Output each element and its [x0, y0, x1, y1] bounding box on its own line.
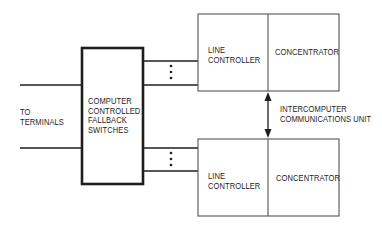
- upper-ellipsis-dot-3: [170, 77, 173, 80]
- fallback-switches-label: COMPUTER CONTROLLED FALLBACK SWITCHES: [88, 97, 140, 135]
- intercomputer-label-line1: INTERCOMPUTER: [280, 105, 371, 115]
- upper-concentrator-label: CONCENTRATOR: [275, 48, 339, 58]
- fallback-label-line3: FALLBACK: [88, 116, 140, 126]
- lower-line-controller-line1: LINE: [208, 172, 260, 182]
- terminals-label-line2: TERMINALS: [20, 118, 64, 128]
- terminals-label-line1: TO: [20, 108, 64, 118]
- lower-line-controller-label: LINE CONTROLLER: [208, 172, 260, 191]
- lower-concentrator-label: CONCENTRATOR: [276, 174, 340, 184]
- terminals-label: TO TERMINALS: [20, 108, 64, 127]
- fallback-label-line4: SWITCHES: [88, 126, 140, 136]
- upper-ellipsis-dot-1: [170, 65, 173, 68]
- fallback-label-line2: CONTROLLED: [88, 107, 140, 117]
- upper-line-controller-line1: LINE: [208, 46, 260, 56]
- fallback-label-line1: COMPUTER: [88, 97, 140, 107]
- intercomputer-label-line2: COMMUNICATIONS UNIT: [280, 115, 371, 125]
- upper-line-controller-line2: CONTROLLER: [208, 56, 260, 66]
- lower-ellipsis-dot-1: [170, 152, 173, 155]
- intercomputer-label: INTERCOMPUTER COMMUNICATIONS UNIT: [280, 105, 371, 124]
- lower-ellipsis-dot-2: [170, 158, 173, 161]
- lower-line-controller-line2: CONTROLLER: [208, 182, 260, 192]
- upper-ellipsis-dot-2: [170, 71, 173, 74]
- double-arrow-icon: [265, 92, 272, 138]
- fallback-switching-diagram: TO TERMINALS COMPUTER CONTROLLED FALLBAC…: [0, 0, 382, 229]
- upper-line-controller-label: LINE CONTROLLER: [208, 46, 260, 65]
- lower-ellipsis-dot-3: [170, 164, 173, 167]
